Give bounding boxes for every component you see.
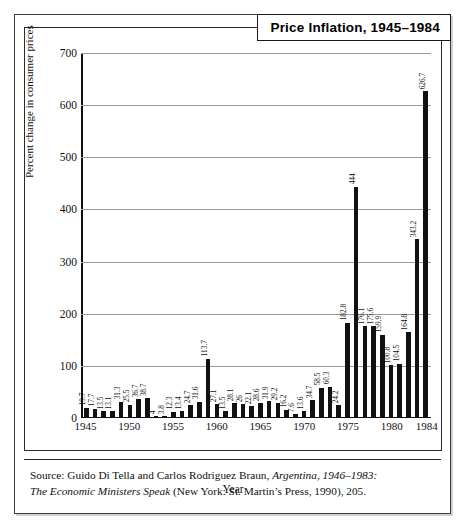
x-axis-tick-label: 1950 <box>118 420 140 432</box>
bar-cell: 626.7 <box>421 53 430 418</box>
x-axis-tick-label: 1970 <box>293 420 315 432</box>
bar-value-label: 22.1 <box>244 392 251 405</box>
bar-value-label: 3.8 <box>157 405 164 414</box>
y-axis-tick-label: 100 <box>60 360 77 372</box>
bar-cell: 24.7 <box>186 53 195 418</box>
bar-value-label: 31.6 <box>192 387 199 400</box>
bar-series: 19.717.713.513.131.325.536.738.743.812.3… <box>81 53 431 418</box>
bar: 31.9 <box>267 401 272 418</box>
bar-cell: 38.7 <box>143 53 152 418</box>
bar-value-label: 164.8 <box>401 314 408 330</box>
bar-cell: 31.3 <box>117 53 126 418</box>
bar-value-label: 38.7 <box>140 383 147 396</box>
bar-value-label: 26 <box>236 395 243 402</box>
bar: 444 <box>354 187 359 419</box>
bar: 164.8 <box>406 332 411 418</box>
bar: 17.7 <box>93 409 98 418</box>
bar-cell: 22.1 <box>247 53 256 418</box>
bar-value-label: 13.4 <box>175 396 182 409</box>
bar-cell: 343.2 <box>413 53 422 418</box>
bar-cell: 31.6 <box>195 53 204 418</box>
x-axis-tick-label: 1984 <box>416 420 438 432</box>
source-suffix: (New York: St. Martin’s Press, 1990), 20… <box>170 485 366 497</box>
bar-value-label: 24.7 <box>183 390 190 403</box>
bar-value-label: 24.2 <box>331 391 338 404</box>
bar-cell: 113.7 <box>204 53 213 418</box>
bar-value-label: 176.1 <box>358 308 365 324</box>
x-axis-tick-labels: 194519501955196019651970197519801984 <box>81 420 431 436</box>
bar-cell: 16.2 <box>282 53 291 418</box>
bar: 100.8 <box>389 365 394 418</box>
bar-value-label: 182.8 <box>340 304 347 320</box>
bar-value-label: 343.2 <box>410 221 417 237</box>
bar: 31.6 <box>197 402 202 418</box>
source-title-part-1: Argentina, 1946–1983: <box>272 469 377 481</box>
plot-frame: Percent change in consumer prices 010020… <box>24 27 442 451</box>
bar-value-label: 31.9 <box>262 387 269 400</box>
bar-value-label: 159.9 <box>375 316 382 332</box>
y-axis-tick-label: 700 <box>60 47 77 59</box>
bar-cell: 13.5 <box>221 53 230 418</box>
bar: 34.7 <box>310 400 315 418</box>
bar-value-label: 175.6 <box>366 308 373 324</box>
bar-cell: 27.1 <box>213 53 222 418</box>
bar: 22.1 <box>249 406 254 418</box>
bar: 13.6 <box>302 411 307 418</box>
bar: 24.2 <box>336 405 341 418</box>
bar-cell: 28.1 <box>230 53 239 418</box>
bar: 175.6 <box>371 326 376 418</box>
x-axis-tick-label: 1965 <box>249 420 271 432</box>
bar-value-label: 13.5 <box>96 396 103 409</box>
bar-value-label: 7.6 <box>288 403 295 412</box>
bar-value-label: 13.5 <box>218 396 225 409</box>
bar-value-label: 444 <box>349 174 356 185</box>
source-prefix: Source: Guido Di Tella and Carlos Rodrig… <box>30 469 272 481</box>
bar: 13.1 <box>110 411 115 418</box>
bar-cell: 29.2 <box>273 53 282 418</box>
bar-cell: 25.5 <box>126 53 135 418</box>
bar-cell: 26 <box>239 53 248 418</box>
source-note: Source: Guido Di Tella and Carlos Rodrig… <box>24 459 441 504</box>
chart-title-plaque: Price Inflation, 1945–1984 <box>257 14 451 41</box>
y-axis-tick-label: 200 <box>60 308 77 320</box>
bar: 13.5 <box>101 411 106 418</box>
bar-cell: 28.6 <box>256 53 265 418</box>
bar: 26 <box>241 404 246 418</box>
x-axis-tick-label: 1945 <box>74 420 96 432</box>
bar-cell: 12.3 <box>169 53 178 418</box>
bar-value-label: 58.5 <box>314 373 321 386</box>
source-line-2: The Economic Ministers Speak (New York: … <box>30 483 437 499</box>
bar-cell: 13.6 <box>300 53 309 418</box>
bar: 58.5 <box>319 388 324 419</box>
bar: 13.5 <box>223 411 228 418</box>
bar-cell: 58.5 <box>317 53 326 418</box>
bar-cell: 13.4 <box>178 53 187 418</box>
bar: 104.5 <box>397 364 402 418</box>
bar-value-label: 13.6 <box>297 396 304 409</box>
bar-cell: 13.5 <box>99 53 108 418</box>
x-axis-tick-label: 1980 <box>381 420 403 432</box>
x-axis-tick-label: 1960 <box>206 420 228 432</box>
bar-cell: 13.1 <box>108 53 117 418</box>
bar: 4 <box>154 416 159 418</box>
bar: 31.3 <box>119 402 124 418</box>
bar-cell: 7.6 <box>291 53 300 418</box>
bar-value-label: 4 <box>149 410 156 414</box>
bar-cell: 104.5 <box>395 53 404 418</box>
bar: 38.7 <box>145 398 150 418</box>
bar: 28.1 <box>232 403 237 418</box>
bar-cell: 182.8 <box>343 53 352 418</box>
bar-value-label: 29.2 <box>271 388 278 401</box>
bar-value-label: 16.2 <box>279 395 286 408</box>
bar: 12.3 <box>171 412 176 418</box>
bar: 28.6 <box>258 403 263 418</box>
bar-cell: 175.6 <box>369 53 378 418</box>
bar-cell: 100.8 <box>387 53 396 418</box>
bar: 343.2 <box>415 239 420 418</box>
bar-value-label: 60.3 <box>323 372 330 385</box>
bar-value-label: 113.7 <box>201 341 208 357</box>
bar-cell: 60.3 <box>326 53 335 418</box>
bar-cell: 17.7 <box>91 53 100 418</box>
bar-value-label: 12.3 <box>166 397 173 410</box>
bar-cell: 34.7 <box>308 53 317 418</box>
